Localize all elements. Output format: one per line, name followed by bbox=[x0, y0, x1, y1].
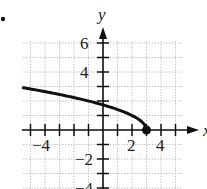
y-tick-label: 4 bbox=[80, 63, 89, 82]
y-tick-label: 6 bbox=[80, 34, 89, 53]
function-graph: −42464−2−4 y x bbox=[0, 0, 207, 189]
x-tick-label: 2 bbox=[127, 136, 136, 155]
function-curve bbox=[23, 88, 146, 130]
x-axis-label: x bbox=[202, 121, 207, 140]
x-tick-label: −4 bbox=[32, 136, 51, 155]
y-tick-label: −4 bbox=[75, 179, 94, 189]
x-axis-arrow-icon bbox=[187, 126, 199, 134]
y-axis-arrow-icon bbox=[99, 27, 107, 39]
y-tick-label: −2 bbox=[75, 150, 93, 169]
y-axis-label: y bbox=[96, 5, 106, 24]
bullet-marker bbox=[1, 17, 5, 21]
endpoint-dot bbox=[142, 126, 151, 135]
x-tick-label: 4 bbox=[156, 136, 165, 155]
